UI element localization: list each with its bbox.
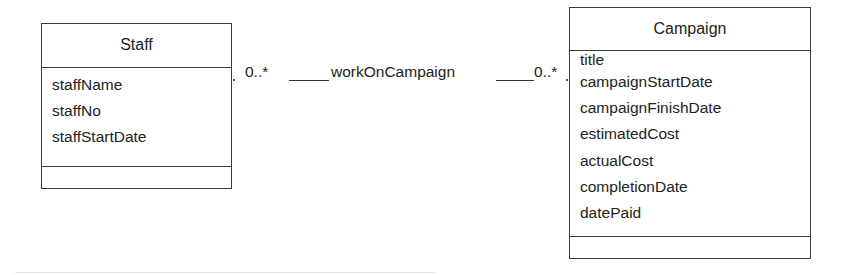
attribute: title: [580, 51, 810, 69]
class-name: Campaign: [570, 8, 810, 51]
association-end-staff: [233, 79, 235, 81]
target-multiplicity: 0..*: [534, 63, 557, 81]
source-multiplicity: 0..*: [245, 63, 268, 81]
attribute: staffStartDate: [52, 124, 231, 150]
association-line[interactable]: [496, 80, 534, 81]
association-end-campaign: [566, 79, 568, 81]
attribute-compartment: staffName staffNo staffStartDate: [42, 68, 231, 167]
attribute: actualCost: [580, 148, 810, 174]
class-staff[interactable]: Staff staffName staffNo staffStartDate: [41, 23, 232, 189]
attribute: staffNo: [52, 98, 231, 124]
attribute: datePaid: [580, 200, 810, 226]
divider: [15, 272, 435, 273]
attribute: completionDate: [580, 174, 810, 200]
attribute-compartment: title campaignStartDate campaignFinishDa…: [570, 51, 810, 237]
class-name: Staff: [42, 24, 231, 68]
association-line[interactable]: [289, 80, 329, 81]
attribute: campaignFinishDate: [580, 95, 810, 121]
attribute: campaignStartDate: [580, 69, 810, 95]
attribute: estimatedCost: [580, 121, 810, 147]
class-campaign[interactable]: Campaign title campaignStartDate campaig…: [569, 7, 811, 259]
association-name[interactable]: workOnCampaign: [331, 63, 455, 81]
attribute: staffName: [52, 72, 231, 98]
